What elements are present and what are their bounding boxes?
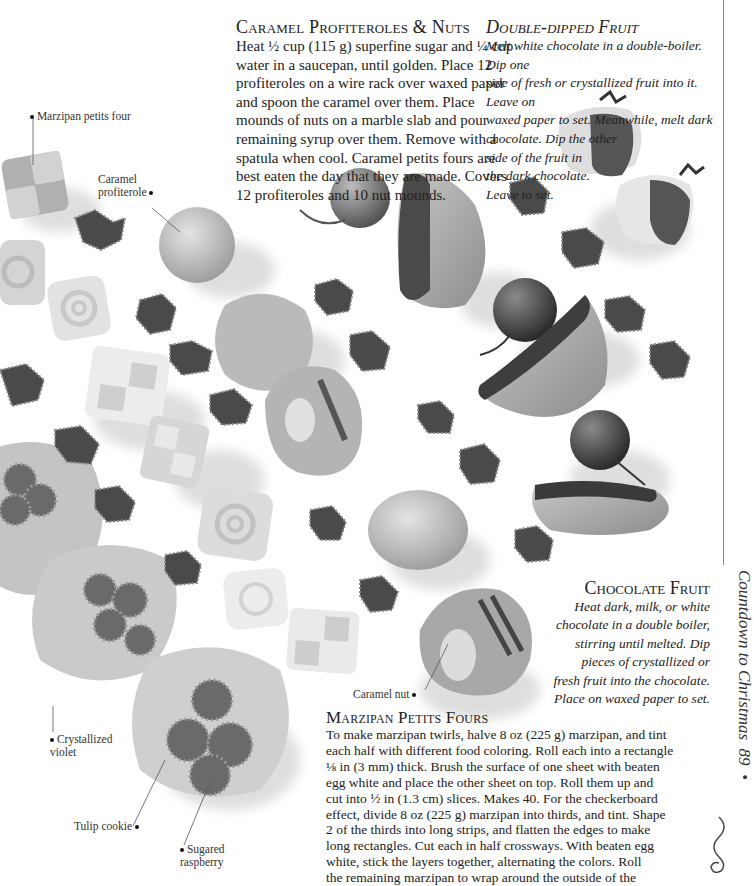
ornament-icon: • bbox=[735, 774, 754, 780]
recipe-line: side of fresh or crystallized fruit into… bbox=[486, 74, 716, 111]
recipe-line: side of the fruit in bbox=[486, 149, 716, 168]
recipe-line: cut into ½ in (1.3 cm) slices. Makes 40.… bbox=[326, 791, 706, 807]
recipe-line: To make marzipan twirls, halve 8 oz (225… bbox=[326, 727, 706, 743]
folio: Countdown to Christmas 89 • bbox=[700, 570, 736, 870]
callout-dot bbox=[30, 115, 34, 119]
recipe-line: Heat dark, milk, or white bbox=[520, 598, 710, 616]
marzipan-petits-fours-recipe: Marzipan Petits Fours To make marzipan t… bbox=[326, 708, 706, 886]
callout-dot bbox=[412, 693, 416, 697]
recipe-line: waxed paper to set. Meanwhile, melt dark bbox=[486, 111, 716, 130]
margin-rule bbox=[723, 0, 724, 565]
recipe-line: the remaining marzipan to wrap around th… bbox=[326, 870, 706, 886]
label-tulip-cookie: Tulip cookie bbox=[74, 820, 139, 833]
label-marzipan-petits-four: Marzipan petits four bbox=[30, 110, 131, 123]
recipe-line: effect, divide 8 oz (225 g) marzipan int… bbox=[326, 807, 706, 823]
recipe-line: pieces of crystallized or bbox=[520, 653, 710, 671]
recipe-line: each half with different food coloring. … bbox=[326, 743, 706, 759]
recipe-line: 2 of the thirds into long strips, and fl… bbox=[326, 822, 706, 838]
recipe-line: white, stick the layers together, altern… bbox=[326, 854, 706, 870]
callout-dot bbox=[149, 191, 153, 195]
recipe-line: chocolate in a double boiler, bbox=[520, 616, 710, 634]
label-crystallized-violet: Crystallized violet bbox=[50, 733, 112, 759]
recipe-line: ⅛ in (3 mm) thick. Brush the surface of … bbox=[326, 759, 706, 775]
recipe-line: stirring until melted. Dip bbox=[520, 635, 710, 653]
running-head: Countdown to Christmas 89 • bbox=[734, 570, 754, 780]
page-number: 89 bbox=[735, 749, 754, 766]
flourish-icon bbox=[704, 815, 734, 875]
callout-dot bbox=[180, 848, 184, 852]
callout-dot bbox=[135, 825, 139, 829]
recipe-line: fresh fruit into the chocolate. bbox=[520, 672, 710, 690]
recipe-title: Marzipan Petits Fours bbox=[326, 708, 706, 727]
label-caramel-profiterole: Caramel profiterole bbox=[98, 173, 153, 199]
recipe-title: Double-dipped Fruit bbox=[486, 17, 716, 37]
recipe-line: long rectangles. Cut each in half crossw… bbox=[326, 838, 706, 854]
recipe-line: Place on waxed paper to set. bbox=[520, 690, 710, 708]
label-caramel-nut: Caramel nut bbox=[353, 688, 416, 701]
callout-dot bbox=[50, 738, 54, 742]
recipe-line: Leave to set. bbox=[486, 186, 716, 205]
recipe-line: chocolate. Dip the other bbox=[486, 130, 716, 149]
recipe-line: egg white and place the other sheet on t… bbox=[326, 775, 706, 791]
label-sugared-raspberry: Sugared raspberry bbox=[180, 843, 225, 869]
recipe-line: the dark chocolate. bbox=[486, 167, 716, 186]
chocolate-fruit-recipe: Chocolate Fruit Heat dark, milk, or whit… bbox=[520, 578, 710, 708]
double-dipped-fruit-recipe: Double-dipped Fruit Melt white chocolate… bbox=[486, 17, 716, 204]
recipe-line: Melt white chocolate in a double-boiler.… bbox=[486, 37, 716, 74]
recipe-title: Chocolate Fruit bbox=[520, 578, 710, 598]
